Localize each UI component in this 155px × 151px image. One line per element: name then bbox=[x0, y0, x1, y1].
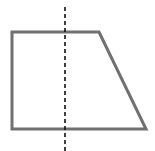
diagram-canvas bbox=[0, 0, 155, 151]
trapezoid-shape bbox=[12, 32, 146, 129]
